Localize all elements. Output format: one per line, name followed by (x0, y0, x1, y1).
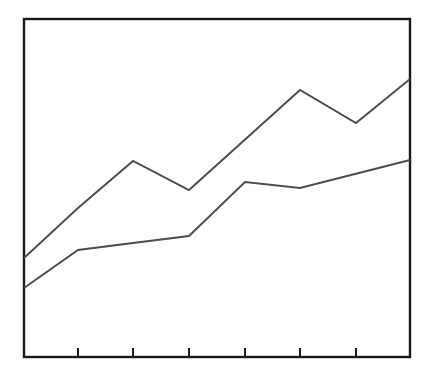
line-chart (0, 0, 432, 387)
chart-container (0, 0, 432, 387)
plot-area-frame (24, 19, 410, 357)
